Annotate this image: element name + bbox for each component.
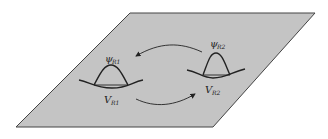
left-psi-subscript: R1 (111, 58, 120, 65)
plane (16, 13, 315, 127)
right-psi-subscript: R2 (216, 43, 226, 50)
left-v-subscript: R1 (110, 99, 119, 106)
diagram-canvas: ψ R1 V R1 ψ R2 V R2 (0, 0, 328, 139)
right-v-subscript: R2 (211, 89, 221, 96)
